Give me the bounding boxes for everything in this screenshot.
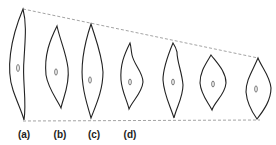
cell-c bbox=[82, 24, 103, 118]
top-envelope-line bbox=[23, 9, 258, 58]
nucleus-6 bbox=[212, 81, 215, 87]
label-d: (d) bbox=[124, 129, 137, 140]
nucleus-b bbox=[55, 69, 58, 75]
cell-a bbox=[10, 9, 26, 120]
cell-6 bbox=[200, 55, 226, 110]
label-a: (a) bbox=[18, 129, 30, 140]
cell-5 bbox=[163, 43, 183, 118]
cell-b bbox=[46, 26, 69, 108]
nucleus-7 bbox=[255, 86, 258, 92]
cell-d bbox=[121, 43, 143, 109]
nucleus-5 bbox=[172, 79, 175, 85]
nucleus-c bbox=[89, 77, 92, 83]
label-b: (b) bbox=[54, 129, 67, 140]
nucleus-a bbox=[17, 65, 20, 72]
nucleus-d bbox=[129, 79, 132, 85]
cell-7 bbox=[246, 58, 271, 119]
cell-shape-diagram: (a) (b) (c) (d) bbox=[0, 0, 276, 145]
label-c: (c) bbox=[88, 129, 100, 140]
bottom-envelope-line bbox=[23, 120, 260, 121]
